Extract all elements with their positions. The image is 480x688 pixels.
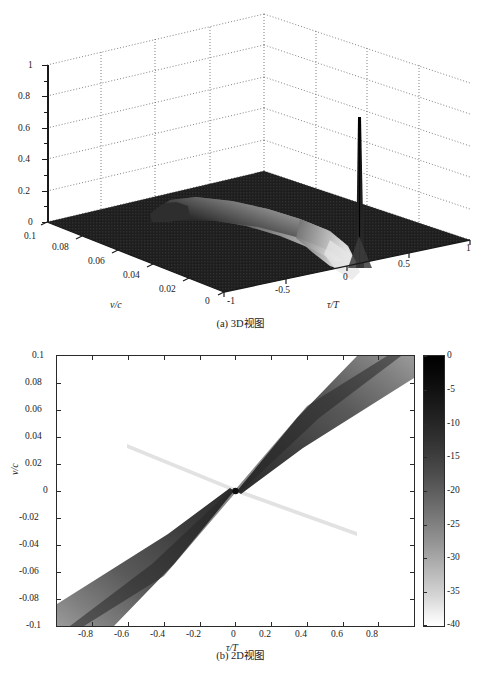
- colorbar-label-neg15: -15: [447, 452, 460, 462]
- x-tick-top: [343, 356, 344, 360]
- y-tick-right: [410, 518, 414, 519]
- x2d-ticklabel-0: 0: [231, 630, 236, 640]
- y2d-ticklabel-neg0-08: -0.08: [19, 594, 39, 604]
- vc-ticklabel-0-06: 0.06: [88, 257, 105, 267]
- y-tick-right: [410, 437, 414, 438]
- x-tick-bottom: [164, 622, 165, 626]
- colorbar-label-neg40: -40: [447, 620, 460, 630]
- colorbar-tick: [423, 491, 427, 492]
- y-tick-right: [410, 599, 414, 600]
- z-ticklabel-0-2: 0.2: [18, 187, 30, 197]
- vc-ticklabel-0-04: 0.04: [123, 271, 140, 281]
- z-minor-tick: [44, 143, 47, 144]
- z-ticklabel-0-4: 0.4: [18, 155, 30, 165]
- y-tick-right: [410, 410, 414, 411]
- x2d-ticklabel-0-8: 0.8: [366, 630, 378, 640]
- panel-3d-view: 1 0.8 0.6 0.4 0.2 0 0.1 0.08 0.06 0.04 0…: [0, 0, 480, 310]
- colorbar-label-0: 0: [447, 351, 452, 361]
- x-tick-top: [271, 356, 272, 360]
- colorbar-tick: [423, 558, 427, 559]
- x-tick-bottom: [128, 622, 129, 626]
- y2d-ticklabel-neg0-04: -0.04: [19, 540, 39, 550]
- x-tick-top: [200, 356, 201, 360]
- axis-label-vc-2d: v/c: [9, 463, 20, 475]
- tau-ticklabel-0: 0: [343, 273, 348, 283]
- z-minor-tick: [44, 81, 47, 82]
- x2d-ticklabel-0-6: 0.6: [331, 630, 343, 640]
- tau-ticklabel-neg0-5: -0.5: [275, 286, 290, 296]
- vc-ticklabel-0-08: 0.08: [52, 243, 69, 253]
- x2d-ticklabel-0-4: 0.4: [295, 630, 307, 640]
- figure-container: 1 0.8 0.6 0.4 0.2 0 0.1 0.08 0.06 0.04 0…: [0, 0, 480, 688]
- surface-noise: [47, 171, 471, 293]
- z-tick-0-4: [42, 159, 47, 160]
- z-tick-1: [42, 65, 47, 66]
- y-tick-left: [57, 572, 61, 573]
- vc-ticklabel-0: 0: [205, 297, 210, 307]
- axis-label-vc-3d: v/c: [110, 300, 122, 310]
- z-minor-tick: [44, 112, 47, 113]
- y-tick-left: [57, 437, 61, 438]
- colorbar-tick: [423, 457, 427, 458]
- x2d-ticklabel-neg0-2: -0.2: [186, 630, 201, 640]
- y2d-ticklabel-neg0-06: -0.06: [19, 567, 39, 577]
- z-ticklabel-0-6: 0.6: [18, 124, 30, 134]
- y2d-ticklabel-0-1: 0.1: [32, 351, 44, 361]
- x-tick-bottom: [271, 622, 272, 626]
- y-tick-left: [57, 491, 61, 492]
- x2d-ticklabel-neg0-8: -0.8: [78, 630, 93, 640]
- tau-ticklabel-neg1: -1: [227, 297, 235, 307]
- y-tick-left: [57, 599, 61, 600]
- plot-2d-area: [56, 355, 415, 627]
- x2d-ticklabel-neg0-6: -0.6: [114, 630, 129, 640]
- y-tick-left: [57, 410, 61, 411]
- y2d-ticklabel-0-06: 0.06: [25, 405, 42, 415]
- z-tick-0: [42, 222, 47, 223]
- vc-ticklabel-0-1: 0.1: [24, 232, 36, 242]
- x-tick-bottom: [378, 622, 379, 626]
- y-tick-right: [410, 491, 414, 492]
- y2d-ticklabel-0-08: 0.08: [25, 378, 42, 388]
- z-minor-tick: [44, 175, 47, 176]
- colorbar-tick: [423, 424, 427, 425]
- heatmap-canvas: [57, 356, 414, 626]
- colorbar: [423, 355, 445, 627]
- axis-label-tau-3d: τ/T: [327, 300, 339, 310]
- z-tick-0-8: [42, 96, 47, 97]
- x-tick-top: [235, 356, 236, 360]
- colorbar-label-neg30: -30: [447, 553, 460, 563]
- x-tick-top: [128, 356, 129, 360]
- caption-panel-a: (a) 3D视图: [0, 318, 480, 331]
- z-minor-tick: [44, 206, 47, 207]
- x-tick-top: [164, 356, 165, 360]
- colorbar-label-neg35: -35: [447, 587, 460, 597]
- x-tick-bottom: [235, 622, 236, 626]
- colorbar-tick: [423, 525, 427, 526]
- y-tick-right: [410, 545, 414, 546]
- y-tick-left: [57, 464, 61, 465]
- x-tick-bottom: [200, 622, 201, 626]
- y2d-ticklabel-neg0-1: -0.1: [26, 621, 41, 631]
- x-tick-bottom: [343, 622, 344, 626]
- z-tick-0-2: [42, 191, 47, 192]
- y-tick-left: [57, 383, 61, 384]
- z-ticklabel-1: 1: [28, 61, 33, 71]
- colorbar-tick: [423, 356, 427, 357]
- y-tick-left: [57, 545, 61, 546]
- z-ticklabel-0: 0: [28, 218, 33, 228]
- y2d-ticklabel-0-02: 0.02: [25, 459, 42, 469]
- vc-ticklabel-0-02: 0.02: [159, 285, 176, 295]
- colorbar-tick: [423, 592, 427, 593]
- colorbar-label-neg10: -10: [447, 419, 460, 429]
- colorbar-label-neg25: -25: [447, 520, 460, 530]
- caption-panel-b: (b) 2D视图: [0, 650, 480, 663]
- tau-ticklabel-1: 1: [466, 244, 471, 254]
- colorbar-label-neg5: -5: [447, 385, 455, 395]
- x2d-ticklabel-neg0-4: -0.4: [150, 630, 165, 640]
- y-tick-left: [57, 518, 61, 519]
- y-tick-right: [410, 464, 414, 465]
- y2d-ticklabel-neg0-02: -0.02: [19, 513, 39, 523]
- y2d-ticklabel-0: 0: [43, 486, 48, 496]
- ridge-origin-peak: [232, 488, 238, 494]
- y-tick-right: [410, 572, 414, 573]
